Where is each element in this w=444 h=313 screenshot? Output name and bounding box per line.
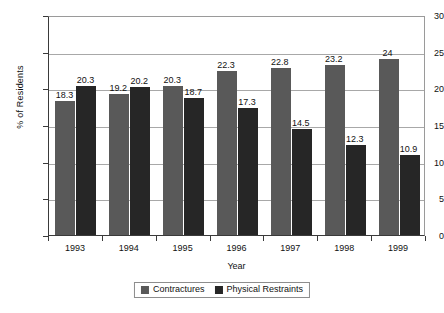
bar (130, 87, 150, 235)
x-tick-label: 1996 (210, 243, 264, 253)
x-tick-label: 1993 (48, 243, 102, 253)
bar-value-label: 22.3 (210, 61, 242, 70)
x-tick-mark (317, 236, 318, 241)
x-tick-mark (48, 236, 49, 241)
bar-value-label: 24 (372, 49, 404, 58)
bar (271, 68, 291, 235)
bar-value-label: 20.3 (69, 76, 101, 85)
bar (184, 98, 204, 235)
x-tick-label: 1998 (317, 243, 371, 253)
y-axis-title: % of Residents (15, 47, 25, 147)
chart-legend: ContracturesPhysical Restraints (134, 282, 310, 298)
bar-value-label: 12.3 (339, 135, 371, 144)
x-tick-mark (371, 236, 372, 241)
bar-value-label: 17.3 (231, 98, 263, 107)
x-tick-mark (102, 236, 103, 241)
bar-value-label: 23.2 (318, 55, 350, 64)
x-tick-label: 1997 (263, 243, 317, 253)
bar (346, 145, 366, 235)
bar-value-label: 10.9 (393, 145, 425, 154)
x-tick-mark (156, 236, 157, 241)
bar (292, 129, 312, 235)
bar (238, 108, 258, 235)
x-tick-label: 1999 (371, 243, 425, 253)
legend-label: Physical Restraints (227, 285, 304, 294)
bar (400, 155, 420, 235)
legend-swatch-icon (215, 286, 223, 294)
bar-chart: % of Residents 051015202530 18.320.319.2… (0, 0, 444, 313)
bar (217, 71, 237, 235)
bar-value-label: 18.3 (48, 91, 80, 100)
gridline (49, 54, 424, 55)
bar (325, 65, 345, 235)
x-tick-label: 1994 (102, 243, 156, 253)
bar (163, 86, 183, 235)
x-axis-title: Year (48, 261, 425, 271)
legend-swatch-icon (141, 286, 149, 294)
x-tick-mark (210, 236, 211, 241)
bar (55, 101, 75, 235)
bar-value-label: 20.3 (156, 76, 188, 85)
bar-value-label: 14.5 (285, 119, 317, 128)
legend-item: Contractures (141, 285, 205, 294)
x-tick-mark (425, 236, 426, 241)
legend-item: Physical Restraints (215, 285, 304, 294)
bar-value-label: 18.7 (177, 88, 209, 97)
bar-value-label: 20.2 (123, 77, 155, 86)
bar (76, 86, 96, 235)
bar (109, 94, 129, 235)
bar-value-label: 22.8 (264, 58, 296, 67)
plot-area (48, 16, 425, 236)
x-tick-label: 1995 (156, 243, 210, 253)
legend-label: Contractures (153, 285, 205, 294)
x-tick-mark (263, 236, 264, 241)
